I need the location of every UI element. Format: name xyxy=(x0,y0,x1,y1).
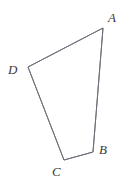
quadrilateral-diagram: A B C D xyxy=(0,0,125,183)
vertex-label-c: C xyxy=(52,164,61,179)
vertex-label-a: A xyxy=(107,10,116,25)
vertex-label-d: D xyxy=(7,62,18,77)
vertex-label-b: B xyxy=(99,142,107,157)
figure-canvas: A B C D xyxy=(0,0,125,183)
